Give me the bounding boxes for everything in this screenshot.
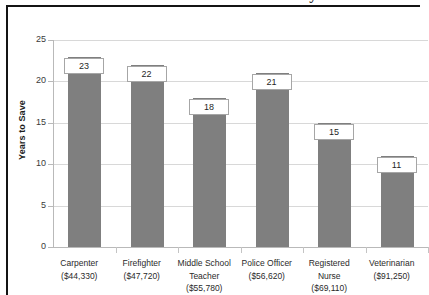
x-category-label: Middle SchoolTeacher($55,780): [168, 257, 240, 295]
bar-value-label: 18: [189, 99, 229, 115]
x-category-name: Veterinarian: [356, 257, 428, 270]
bar-value-label: 21: [252, 74, 292, 90]
x-category-salary: ($55,780): [168, 282, 240, 295]
x-category-label: Police Officer($56,620): [231, 257, 303, 282]
x-tick-mark: [366, 247, 367, 253]
x-category-salary: ($69,110): [293, 282, 365, 295]
bar-value-label: 22: [127, 66, 167, 82]
x-category-label: Veterinarian($91,250): [356, 257, 428, 282]
y-axis-tick-labels: 0510152025: [8, 7, 46, 295]
bar-value-label: 23: [64, 58, 104, 74]
y-tick-mark: [48, 247, 54, 248]
y-tick-mark: [48, 164, 54, 165]
bar-group: 18: [178, 40, 241, 247]
y-tick-label: 5: [12, 200, 46, 210]
bar[interactable]: [318, 123, 351, 247]
x-category-salary: ($91,250): [356, 270, 428, 283]
y-axis-title: Years to Save: [17, 90, 27, 170]
y-tick-label: 0: [12, 241, 46, 251]
bar-value-label: 11: [377, 157, 417, 173]
bar[interactable]: [256, 73, 289, 247]
x-category-salary: ($44,330): [43, 270, 115, 283]
y-tick-mark: [48, 40, 54, 41]
x-tick-mark: [178, 247, 179, 253]
x-tick-mark: [116, 247, 117, 253]
x-tick-mark: [241, 247, 242, 253]
y-tick-mark: [48, 123, 54, 124]
x-category-label: RegisteredNurse($69,110): [293, 257, 365, 295]
bar-group: 23: [53, 40, 116, 247]
x-category-name: Registered: [293, 257, 365, 270]
y-tick-label: 20: [12, 75, 46, 85]
x-category-name: Firefighter: [106, 257, 178, 270]
x-category-salary: ($56,620): [231, 270, 303, 283]
bar-group: 11: [366, 40, 429, 247]
bar[interactable]: [131, 65, 164, 247]
bar-group: 15: [303, 40, 366, 247]
x-category-name: Teacher: [168, 270, 240, 283]
x-category-name: Carpenter: [43, 257, 115, 270]
x-category-label: Firefighter($47,720): [106, 257, 178, 282]
bar-value-label: 15: [314, 124, 354, 140]
chart-frame: 0510152025 Years to Save 232218211511 Ca…: [6, 5, 420, 295]
x-category-name: Nurse: [293, 270, 365, 283]
x-category-name: Police Officer: [231, 257, 303, 270]
chart-title: Years Needed to Save for a Down Payment: [0, 0, 420, 4]
x-category-name: Middle School: [168, 257, 240, 270]
bar[interactable]: [68, 57, 101, 247]
bar-group: 22: [116, 40, 179, 247]
x-category-salary: ($47,720): [106, 270, 178, 283]
bar[interactable]: [193, 98, 226, 247]
y-tick-mark: [48, 81, 54, 82]
y-tick-label: 25: [12, 34, 46, 44]
plot-area: 232218211511: [53, 40, 428, 247]
bar-group: 21: [241, 40, 304, 247]
x-axis-category-labels: Carpenter($44,330)Firefighter($47,720)Mi…: [53, 257, 428, 295]
x-tick-mark: [303, 247, 304, 253]
y-tick-mark: [48, 206, 54, 207]
x-category-label: Carpenter($44,330): [43, 257, 115, 282]
